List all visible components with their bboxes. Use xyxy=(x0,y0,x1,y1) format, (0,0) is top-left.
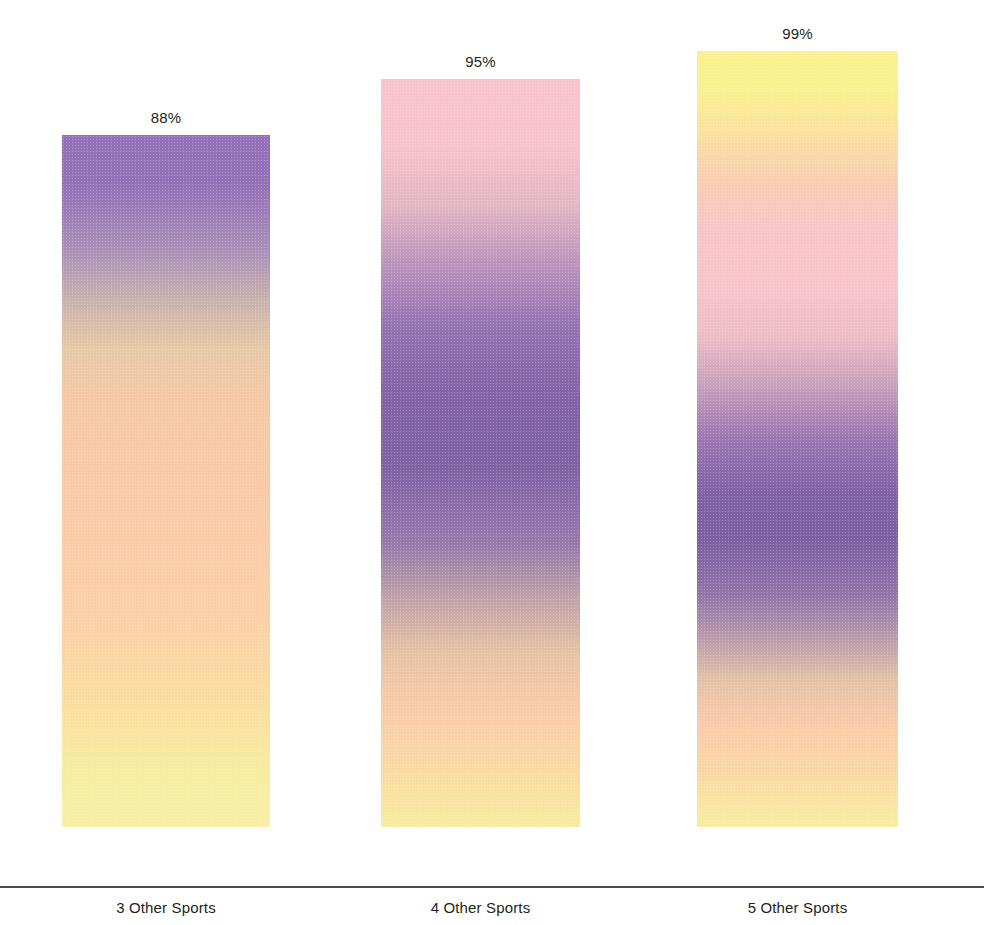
bar-2[interactable] xyxy=(381,79,580,827)
bar-group-2: 95% xyxy=(381,79,580,827)
bar-value-label-3: 99% xyxy=(697,26,898,41)
bar-value-label-1: 88% xyxy=(62,110,270,125)
bar-value-label-2: 95% xyxy=(381,54,580,69)
x-axis-labels: 3 Other Sports 4 Other Sports 5 Other Sp… xyxy=(0,898,984,925)
x-axis-label-3: 5 Other Sports xyxy=(697,898,898,918)
bar-1[interactable] xyxy=(62,135,270,827)
plot-area: 88% 95% 99% xyxy=(0,0,984,886)
x-axis-label-2: 4 Other Sports xyxy=(381,898,580,918)
x-axis-label-1: 3 Other Sports xyxy=(62,898,270,918)
bar-group-1: 88% xyxy=(62,135,270,827)
x-axis-line xyxy=(0,886,984,888)
bar-group-3: 99% xyxy=(697,51,898,827)
bar-3[interactable] xyxy=(697,51,898,827)
bar-chart: 88% 95% 99% 3 Other Sports 4 Other Sport… xyxy=(0,0,984,925)
